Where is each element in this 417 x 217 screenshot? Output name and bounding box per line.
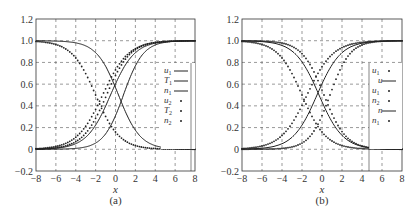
x-tick-label: −2 [90,173,101,184]
y-tick-label: 1.0 [21,35,34,46]
y-tick-label: 0.2 [227,122,240,133]
x-tick-label: −4 [70,173,81,184]
legend: u1uu1n2nn1 [369,63,402,171]
x-tick-label: −2 [297,173,308,184]
x-tick-label: 2 [133,173,138,184]
y-tick-label: 1.2 [21,14,34,25]
legend-dot-marker [388,90,390,92]
x-tick-label: −6 [257,173,268,184]
y-tick-label: 0.6 [21,79,34,90]
y-tick-label: −0.2 [15,166,33,177]
y-tick-label: 0.8 [21,57,34,68]
legend-dot-marker [388,100,390,102]
panel-caption: (a) [109,194,122,207]
y-tick-label: 0.4 [21,100,34,111]
legend: u1T1n1u2T2n2 [161,63,195,171]
x-tick-label: 4 [153,173,158,184]
legend-dot-marker [180,100,182,102]
x-tick-label: 2 [340,173,345,184]
y-tick-label: 0.4 [227,100,240,111]
y-tick-label: 0.2 [21,122,34,133]
x-tick-label: 6 [380,173,385,184]
y-tick-label: 1.2 [227,14,240,25]
legend-dot-marker [180,110,182,112]
x-tick-label: −6 [51,173,62,184]
y-tick-label: −0.2 [221,166,239,177]
y-tick-label: 1.0 [227,35,240,46]
legend-label: n [378,105,383,115]
panel-caption: (b) [316,194,329,207]
y-tick-label: 0 [234,144,239,155]
figure: −8−6−4−202468−0.200.20.40.60.81.01.2x(a)… [0,0,417,217]
chart-panel-a: −8−6−4−202468−0.200.20.40.60.81.01.2x(a)… [15,14,198,208]
x-tick-label: 8 [193,173,198,184]
x-tick-label: −4 [277,173,288,184]
chart-panel-b: −8−6−4−202468−0.200.20.40.60.81.01.2x(b)… [221,14,405,208]
legend-dot-marker [388,120,390,122]
y-tick-label: 0.6 [227,79,240,90]
legend-dot-marker [180,120,182,122]
x-tick-label: 6 [173,173,178,184]
x-tick-label: 8 [400,173,405,184]
x-tick-label: 4 [360,173,365,184]
legend-label: u [378,75,383,85]
y-tick-label: 0.8 [227,57,240,68]
legend-dot-marker [388,70,390,72]
y-tick-label: 0 [28,144,33,155]
